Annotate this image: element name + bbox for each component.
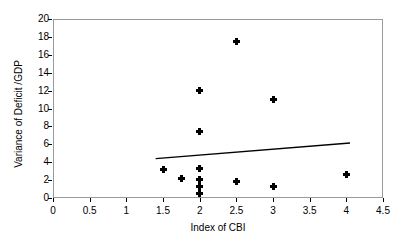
data-point <box>270 96 277 103</box>
y-tick-mark <box>48 126 52 127</box>
data-point <box>196 176 203 183</box>
trendline <box>53 19 383 198</box>
y-tick-mark <box>48 19 52 20</box>
x-tick-mark <box>273 198 274 202</box>
x-axis-ticks: 00.511.522.533.544.5 <box>53 198 383 220</box>
x-tick-label: 4.5 <box>368 206 398 216</box>
data-point <box>196 190 203 197</box>
y-tick-label: 0 <box>29 193 49 203</box>
x-tick-label: 2 <box>185 206 215 216</box>
x-tick-mark <box>200 198 201 202</box>
x-tick-label: 1.5 <box>148 206 178 216</box>
y-tick-label: 4 <box>29 157 49 167</box>
y-tick-mark <box>48 55 52 56</box>
data-point <box>178 175 185 182</box>
y-tick-label: 2 <box>29 175 49 185</box>
y-tick-label: 20 <box>29 14 49 24</box>
y-tick-label: 18 <box>29 32 49 42</box>
y-tick-label: 6 <box>29 139 49 149</box>
x-tick-mark <box>90 198 91 202</box>
y-tick-mark <box>48 162 52 163</box>
data-point <box>160 166 167 173</box>
y-tick-mark <box>48 198 52 199</box>
y-tick-label: 10 <box>29 104 49 114</box>
y-axis-title: Variance of Deficit /GDP <box>9 25 27 204</box>
x-tick-mark <box>310 198 311 202</box>
x-tick-mark <box>346 198 347 202</box>
y-tick-mark <box>48 180 52 181</box>
x-tick-mark <box>163 198 164 202</box>
scatter-chart: Variance of Deficit /GDP 024681012141618… <box>0 0 408 247</box>
data-point <box>233 178 240 185</box>
x-tick-label: 1 <box>111 206 141 216</box>
data-point <box>270 183 277 190</box>
y-tick-mark <box>48 37 52 38</box>
x-tick-label: 2.5 <box>221 206 251 216</box>
x-tick-mark <box>236 198 237 202</box>
data-point <box>343 171 350 178</box>
data-point <box>196 128 203 135</box>
data-point <box>196 87 203 94</box>
y-tick-label: 16 <box>29 50 49 60</box>
x-tick-label: 0.5 <box>75 206 105 216</box>
y-tick-mark <box>48 73 52 74</box>
x-tick-label: 4 <box>331 206 361 216</box>
data-point <box>233 38 240 45</box>
y-tick-mark <box>48 109 52 110</box>
y-tick-label: 14 <box>29 68 49 78</box>
x-tick-mark <box>53 198 54 202</box>
y-tick-label: 12 <box>29 86 49 96</box>
data-point <box>196 165 203 172</box>
y-tick-mark <box>48 91 52 92</box>
x-axis-title: Index of CBI <box>53 222 383 233</box>
x-tick-label: 0 <box>38 206 68 216</box>
x-tick-mark <box>126 198 127 202</box>
y-tick-mark <box>48 144 52 145</box>
x-tick-label: 3 <box>258 206 288 216</box>
x-tick-mark <box>383 198 384 202</box>
y-tick-label: 8 <box>29 121 49 131</box>
x-tick-label: 3.5 <box>295 206 325 216</box>
y-axis-ticks: 02468101214161820 <box>27 19 49 198</box>
